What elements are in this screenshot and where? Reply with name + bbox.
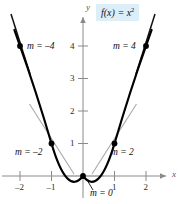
data-point-neg2-4 bbox=[17, 43, 23, 49]
y-tick-label-4: 4 bbox=[70, 42, 75, 51]
formula-exponent: 2 bbox=[131, 6, 134, 13]
slope-label-neg2: m = –2 bbox=[15, 148, 43, 158]
x-tick-label-neg2: –2 bbox=[15, 183, 24, 192]
plot-area bbox=[0, 0, 187, 204]
parabola-tangent-slope-figure: f(x) = x2 x y –2 –1 1 2 1 2 3 4 m = –4 m… bbox=[0, 0, 187, 204]
slope-label-pos2: m = 2 bbox=[111, 148, 134, 158]
x-tick-label-pos2: 2 bbox=[144, 183, 149, 192]
slope-label-pos4: m = 4 bbox=[113, 42, 136, 52]
tangent-line-at-neg1 bbox=[30, 104, 75, 174]
function-formula-callout: f(x) = x2 bbox=[96, 4, 139, 21]
y-axis-label: y bbox=[86, 3, 90, 12]
data-point-pos1-1 bbox=[112, 141, 118, 147]
slope-label-zero: m = 0 bbox=[90, 189, 113, 199]
x-tick-label-neg1: –1 bbox=[47, 183, 56, 192]
x-axis-arrow-icon bbox=[160, 173, 166, 179]
formula-expression: f(x) = x bbox=[101, 7, 131, 18]
y-tick-label-2: 2 bbox=[70, 107, 75, 116]
y-axis-arrow-icon bbox=[80, 17, 86, 23]
y-tick-label-1: 1 bbox=[70, 139, 75, 148]
data-point-neg1-1 bbox=[49, 141, 55, 147]
y-tick-label-3: 3 bbox=[70, 74, 75, 83]
slope-label-neg4: m = –4 bbox=[27, 42, 55, 52]
data-point-pos2-4 bbox=[143, 43, 149, 49]
x-axis-label: x bbox=[172, 170, 176, 179]
data-point-origin bbox=[80, 173, 86, 179]
tangent-line-at-pos1 bbox=[92, 104, 137, 174]
